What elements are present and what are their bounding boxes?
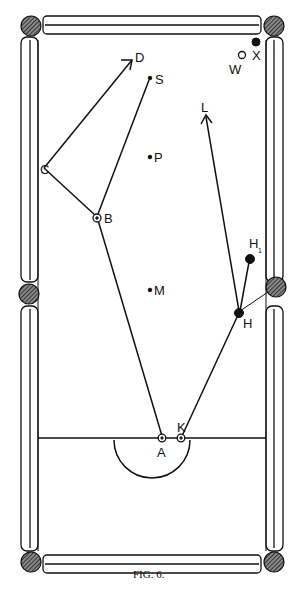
label-H1-sub: 1 <box>258 247 262 254</box>
path-H-L <box>206 117 239 311</box>
label-D: D <box>135 50 144 65</box>
label-M: M <box>154 283 165 298</box>
ball-M <box>148 288 152 292</box>
pocket-middle-right <box>266 277 286 297</box>
balls <box>93 38 260 442</box>
shot-paths <box>44 60 268 436</box>
ball-H1 <box>246 255 255 264</box>
label-B: B <box>104 211 113 226</box>
label-S: S <box>155 72 164 87</box>
figure-caption: FIG. 6. <box>133 568 165 580</box>
path-H-H1 <box>240 262 249 311</box>
label-L: L <box>201 100 208 115</box>
pocket-top-left <box>21 16 41 36</box>
ball-X <box>252 38 260 46</box>
ball-S <box>148 76 152 80</box>
label-K: K <box>177 420 186 435</box>
path-B-S <box>98 80 149 214</box>
ball-P <box>148 155 152 159</box>
pockets <box>19 16 286 572</box>
label-X: X <box>252 48 261 63</box>
path-K-H <box>182 315 238 436</box>
pocket-top-right <box>264 16 284 36</box>
pocket-bottom-left <box>21 552 41 572</box>
label-C: C <box>40 162 49 177</box>
pocket-middle-left <box>19 284 39 304</box>
pocket-bottom-right <box>264 552 284 572</box>
path-A-B <box>98 220 162 436</box>
billiard-table-diagram: D S W X L C P B H 1 M H A K FIG. 6. <box>0 0 302 589</box>
label-A: A <box>157 445 166 460</box>
label-H1: H <box>249 236 258 251</box>
label-W: W <box>229 62 242 77</box>
path-B-C <box>44 168 96 216</box>
label-P: P <box>154 150 163 165</box>
label-H: H <box>243 316 252 331</box>
path-C-D <box>44 60 132 168</box>
path-H-pocket <box>240 292 268 311</box>
ball-W <box>239 52 246 59</box>
